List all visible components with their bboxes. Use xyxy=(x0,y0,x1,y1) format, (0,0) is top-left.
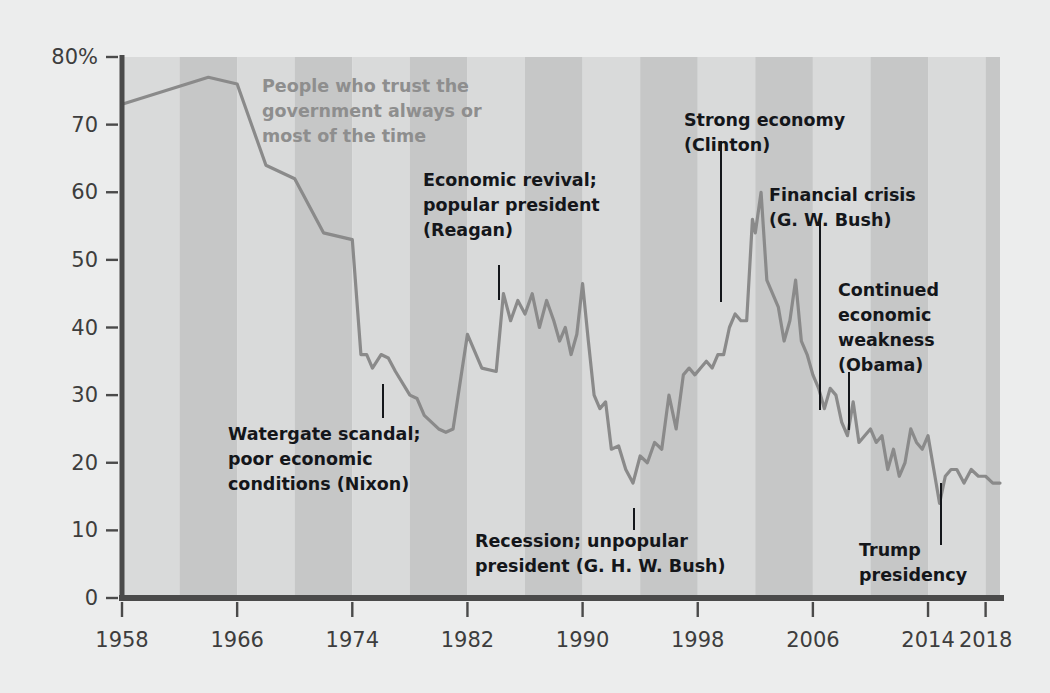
x-tick-label: 1974 xyxy=(326,628,379,652)
era-band xyxy=(870,57,928,598)
y-tick-label: 10 xyxy=(71,518,98,542)
annotation-text-line: Economic revival; xyxy=(423,170,597,190)
y-tick-label: 20 xyxy=(71,451,98,475)
annotation-text-line: (Reagan) xyxy=(423,220,513,240)
era-band xyxy=(928,57,986,598)
annotation-text-line: Recession; unpopular xyxy=(475,531,688,551)
plot-era-bands xyxy=(122,57,1000,598)
annotation-text-line: (G. W. Bush) xyxy=(769,210,891,230)
annotation-text-line: weakness xyxy=(838,330,935,350)
annotation-text-line: Trump xyxy=(859,540,921,560)
era-band xyxy=(180,57,238,598)
annotation-text-line: Watergate scandal; xyxy=(228,424,420,444)
x-tick-label: 1998 xyxy=(671,628,724,652)
annotation-text-line: popular president xyxy=(423,195,600,215)
era-band xyxy=(467,57,525,598)
era-band xyxy=(813,57,871,598)
era-band xyxy=(525,57,583,598)
series-label-line-1: People who trust the xyxy=(262,76,469,96)
chart-canvas: 01020304050607080% 195819661974198219901… xyxy=(0,0,1050,693)
series-label-line-2: government always or xyxy=(262,101,482,121)
y-tick-label: 50 xyxy=(71,248,98,272)
annotation-text-line: economic xyxy=(838,305,931,325)
annotation-text-line: president (G. H. W. Bush) xyxy=(475,556,726,576)
y-tick-label: 70 xyxy=(71,113,98,137)
era-band xyxy=(583,57,641,598)
y-tick-label: 0 xyxy=(85,586,98,610)
x-tick-label: 2014 xyxy=(901,628,954,652)
annotation-text-line: poor economic xyxy=(228,449,373,469)
x-tick-label: 1990 xyxy=(556,628,609,652)
era-band xyxy=(122,57,180,598)
x-tick-label: 1966 xyxy=(210,628,263,652)
x-tick-label: 1958 xyxy=(95,628,148,652)
y-tick-label: 30 xyxy=(71,383,98,407)
y-tick-label: 80% xyxy=(51,45,98,69)
x-tick-label: 2006 xyxy=(786,628,839,652)
trust-in-government-chart: 01020304050607080% 195819661974198219901… xyxy=(0,0,1050,693)
y-tick-label: 40 xyxy=(71,316,98,340)
series-label-line-3: most of the time xyxy=(262,126,426,146)
annotation-text-line: Financial crisis xyxy=(769,185,916,205)
x-tick-label: 1982 xyxy=(441,628,494,652)
era-band xyxy=(986,57,1000,598)
annotation-text-line: presidency xyxy=(859,565,968,585)
annotation-text-line: Continued xyxy=(838,280,939,300)
annotation-text-line: (Obama) xyxy=(838,355,923,375)
annotation-text-line: conditions (Nixon) xyxy=(228,474,409,494)
annotation-text-line: (Clinton) xyxy=(684,135,770,155)
y-tick-label: 60 xyxy=(71,180,98,204)
x-tick-label: 2018 xyxy=(959,628,1012,652)
annotation-text-line: Strong economy xyxy=(684,110,846,130)
